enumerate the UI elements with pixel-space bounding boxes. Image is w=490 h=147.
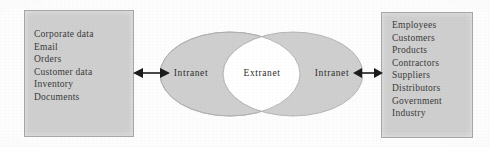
list-item: Employees (392, 19, 472, 32)
extranet-label: Extranet (244, 68, 281, 78)
external-parties-list: Employees Customers Products Contractors… (382, 13, 472, 120)
internal-data-box: Corporate data Email Orders Customer dat… (24, 10, 134, 137)
list-item: Government (392, 95, 472, 108)
list-item: Corporate data (34, 28, 133, 41)
list-item: Suppliers (392, 69, 472, 82)
internal-data-list: Corporate data Email Orders Customer dat… (25, 11, 133, 104)
list-item: Email (34, 41, 133, 54)
double-headed-arrow-icon (133, 64, 170, 82)
list-item: Contractors (392, 57, 472, 70)
diagram-canvas: Corporate data Email Orders Customer dat… (0, 0, 490, 147)
list-item: Inventory (34, 78, 133, 91)
intranet-left-label: Intranet (174, 68, 208, 78)
list-item: Products (392, 44, 472, 57)
intranet-right-label: Intranet (315, 68, 349, 78)
list-item: Documents (34, 91, 133, 104)
list-item: Industry (392, 107, 472, 120)
list-item: Orders (34, 53, 133, 66)
double-headed-arrow-icon (353, 64, 383, 82)
list-item: Distributors (392, 82, 472, 95)
list-item: Customers (392, 32, 472, 45)
external-parties-box: Employees Customers Products Contractors… (381, 12, 473, 138)
list-item: Customer data (34, 66, 133, 79)
